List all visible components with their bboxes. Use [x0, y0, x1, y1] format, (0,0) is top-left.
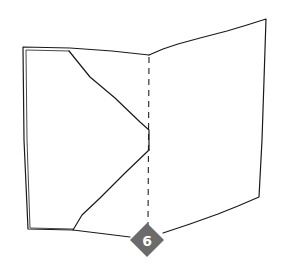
left-panel-inner-edge	[26, 50, 73, 229]
right-panel-edge	[149, 19, 266, 233]
flap-lower-edge	[73, 150, 149, 230]
step-number: 6	[142, 233, 152, 249]
flap-upper-edge	[69, 51, 149, 150]
step-badge: 6	[130, 223, 164, 257]
folding-diagram: 6	[0, 0, 282, 264]
left-panel-outer-edge	[23, 47, 149, 237]
